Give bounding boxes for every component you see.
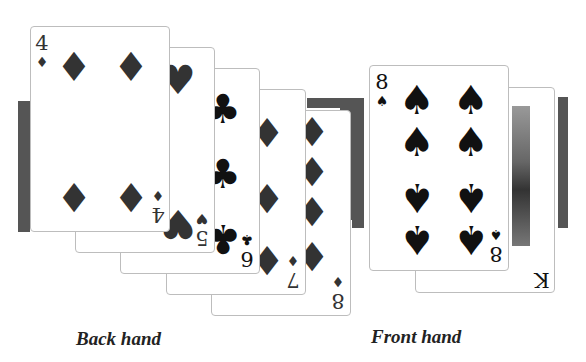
- diamond-pip-icon: ♦: [54, 177, 94, 217]
- diamond-pip-icon: ♦: [111, 177, 151, 217]
- king-face-artwork: [512, 106, 530, 246]
- spade-pip-icon: ♠: [451, 178, 491, 218]
- spade-pip-icon: ♠: [451, 220, 491, 260]
- card-index-bottom: 4♦: [150, 188, 166, 225]
- card-index-bottom: 8♠: [488, 227, 504, 264]
- front-hand-caption: Front hand: [371, 326, 461, 348]
- card-index-bottom: 6♣: [239, 232, 255, 269]
- spade-pip-icon: ♠: [397, 122, 437, 162]
- spade-pip-icon: ♠: [451, 122, 491, 162]
- card-index-bottom: 8♦: [330, 274, 346, 311]
- card-4-diamonds[interactable]: 4♦ ♦ ♦ ♦ ♦ 4♦: [30, 26, 170, 232]
- card-index-top: 4♦: [34, 33, 50, 70]
- spade-pip-icon: ♠: [451, 80, 491, 120]
- diamond-icon: ♦: [34, 54, 50, 70]
- spade-pip-icon: ♠: [397, 178, 437, 218]
- diamond-icon: ♦: [285, 253, 301, 269]
- spade-pip-icon: ♠: [397, 80, 437, 120]
- spade-icon: ♠: [488, 227, 504, 243]
- diamond-icon: ♦: [150, 188, 166, 204]
- diamond-pip-icon: ♦: [111, 47, 151, 87]
- spade-icon: ♠: [374, 93, 390, 109]
- front-hand-left-bar: [352, 98, 364, 228]
- card-index-bottom: 5♥: [194, 211, 210, 248]
- club-icon: ♣: [239, 232, 255, 248]
- card-8-spades[interactable]: 8♠ ♠ ♠ ♠ ♠ ♠ ♠ ♠ ♠ 8♠: [369, 65, 509, 271]
- back-hand-caption: Back hand: [76, 328, 161, 350]
- card-index-top: 8♠: [374, 72, 390, 109]
- front-hand-right-bar: [558, 97, 568, 228]
- spade-pip-icon: ♠: [397, 220, 437, 260]
- card-index-bottom: K: [534, 269, 550, 290]
- heart-icon: ♥: [194, 211, 210, 227]
- diamond-icon: ♦: [330, 274, 346, 290]
- back-hand-left-bar: [18, 101, 30, 232]
- card-index-bottom: 7♦: [285, 253, 301, 290]
- diamond-pip-icon: ♦: [54, 47, 94, 87]
